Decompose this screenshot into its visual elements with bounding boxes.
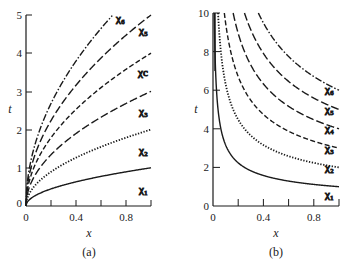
panel-a-ytick-1: 1 (17, 162, 23, 174)
panel-b-ytick-6: 6 (204, 84, 210, 96)
panel-a-xtick-0-8: 0.8 (119, 211, 133, 223)
panel-b-xtick-0-4: 0.4 (257, 211, 271, 223)
panel-b-ytick-2: 2 (204, 161, 210, 173)
panel-a-label-chic: χc (137, 66, 148, 78)
panel-a-xtick-0: 0 (23, 211, 29, 223)
panel-a-ytick-3: 3 (17, 86, 23, 98)
panel-a-label-chi2: χ₂ (138, 144, 148, 156)
panel-b-label-chi3: χ₃ (324, 142, 334, 154)
panel-a-ytick-5: 5 (17, 9, 23, 21)
panel-a-series-chi3 (26, 91, 151, 206)
panel-a-ytick-2: 2 (17, 124, 23, 136)
panel-a-series-chic (26, 53, 151, 206)
panel-b-ytick-10: 10 (198, 7, 210, 19)
panel-a-curves: χ₁χ₂χ₃χcχ₅χ₆ (26, 12, 151, 206)
panel-b-caption: (b) (269, 245, 283, 259)
panel-b-series-chi3 (224, 13, 339, 148)
panel-b: 024681000.40.8xt(b)χ₁χ₂χ₃χ₄χ₅χ₆ (194, 7, 339, 259)
figure: 5 4 3 2 1 0 0 0.4 0.8 x t (a) χ₁χ₂χ₃χcχ₅… (0, 0, 346, 262)
panel-a-x-label: x (85, 226, 92, 240)
panel-b-xtick-0: 0 (210, 211, 216, 223)
panel-a: 5 4 3 2 1 0 0 0.4 0.8 x t (a) χ₁χ₂χ₃χcχ₅… (8, 9, 151, 259)
panel-a-xtick-0-4: 0.4 (69, 211, 83, 223)
panel-a-y-ticks (26, 15, 32, 168)
panel-a-series-chi2 (26, 130, 151, 206)
panel-a-ytick-0: 0 (17, 197, 23, 209)
panel-b-series-chi5 (245, 13, 340, 110)
panel-a-label-chi3: χ₃ (138, 105, 148, 117)
panel-b-label-chi4: χ₄ (324, 122, 334, 134)
panel-b-xtick-0-8: 0.8 (307, 211, 321, 223)
panel-a-label-chi5: χ₅ (138, 24, 148, 36)
panel-b-label-chi5: χ₅ (324, 103, 334, 115)
panel-b-series-chi1 (214, 13, 339, 187)
panel-b-label-chi6: χ₆ (324, 83, 334, 95)
panel-b-ytick-4: 4 (204, 123, 210, 135)
panel-a-label-chi6: χ₆ (115, 12, 125, 24)
panel-b-curves: χ₁χ₂χ₃χ₄χ₅χ₆ (214, 13, 339, 200)
panel-a-x-ticks (51, 200, 151, 206)
panel-b-label-chi2: χ₂ (324, 161, 334, 173)
panel-a-label-chi1: χ₁ (138, 183, 148, 195)
panel-b-label-chi1: χ₁ (324, 188, 334, 200)
panel-b-series-chi6 (258, 13, 339, 90)
panel-b-x-label: x (272, 226, 279, 240)
panel-b-ytick-8: 8 (204, 46, 210, 58)
panel-b-series-chi4 (233, 13, 339, 129)
panel-a-caption: (a) (82, 245, 95, 259)
panel-a-y-label: t (8, 102, 12, 116)
panel-a-series-chi1 (26, 168, 151, 206)
panel-b-series-chi2 (218, 13, 339, 167)
panel-b-ytick-0: 0 (204, 200, 210, 212)
panel-a-ytick-4: 4 (17, 47, 23, 59)
panel-b-y-label: t (194, 102, 198, 116)
